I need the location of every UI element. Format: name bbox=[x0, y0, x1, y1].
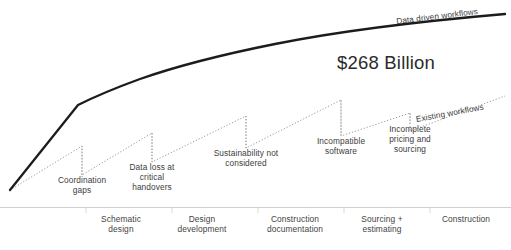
annotation-incomplete-pricing-sourcing: Incomplete pricing and sourcing bbox=[372, 125, 448, 154]
chart-container: Data driven workflows Existing workflows… bbox=[0, 0, 511, 250]
x-axis-label-schematic-design: Schematic design bbox=[84, 215, 158, 235]
x-axis-label-construction-documentation: Construction documentation bbox=[246, 215, 344, 235]
annotation-data-loss-handovers: Data loss at critical handovers bbox=[110, 163, 194, 192]
x-axis-label-sourcing-estimating: Sourcing + estimating bbox=[343, 215, 421, 235]
x-axis-ticks bbox=[86, 208, 430, 214]
x-axis-label-construction: Construction bbox=[428, 215, 504, 225]
value-callout: $268 Billion bbox=[337, 52, 435, 74]
x-axis-label-design-development: Design development bbox=[160, 215, 244, 235]
annotation-sustainability-not-considered: Sustainability not considered bbox=[193, 149, 299, 169]
